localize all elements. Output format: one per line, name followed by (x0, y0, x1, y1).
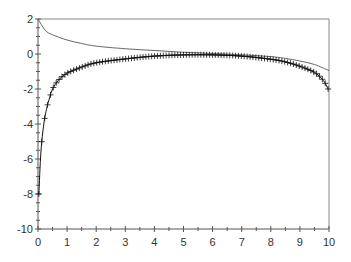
plus-marker (279, 58, 285, 64)
plus-marker (100, 59, 106, 65)
plus-marker (94, 60, 100, 66)
plus-marker (97, 59, 103, 65)
plus-marker (71, 67, 77, 73)
y-tick-label: -8 (23, 188, 33, 200)
plus-marker (45, 102, 51, 108)
plus-marker (296, 63, 302, 69)
plus-marker (282, 59, 288, 65)
series-layer (36, 19, 331, 197)
plus-marker (293, 62, 299, 68)
plus-marker (308, 67, 314, 73)
x-tick-label: 0 (35, 236, 41, 248)
plus-marker (79, 64, 85, 70)
plus-marker (299, 64, 305, 70)
x-tick-label: 1 (64, 236, 70, 248)
y-tick-label: -4 (23, 118, 33, 130)
plus-marker (276, 57, 282, 63)
x-tick-label: 8 (268, 236, 274, 248)
x-tick-label: 4 (151, 236, 157, 248)
plus-marker (76, 65, 82, 71)
plus-marker (305, 66, 311, 72)
plus-marker (91, 60, 97, 66)
y-tick-label: 0 (27, 48, 33, 60)
plus-marker (68, 68, 74, 74)
y-tick-label: -10 (17, 223, 33, 235)
y-tick-label: -2 (23, 83, 33, 95)
series-line-1 (38, 19, 329, 71)
plus-marker (290, 61, 296, 67)
plus-marker (82, 63, 88, 69)
plus-marker (285, 59, 291, 65)
y-axis-ticks: 20-2-4-6-8-10 (17, 13, 41, 235)
x-tick-label: 3 (122, 236, 128, 248)
plus-marker (39, 139, 45, 145)
plus-marker (42, 115, 48, 121)
x-tick-label: 7 (239, 236, 245, 248)
plus-marker (85, 62, 91, 68)
plus-marker (273, 57, 279, 63)
y-tick-label: -6 (23, 153, 33, 165)
plus-marker (36, 191, 42, 197)
plus-marker (288, 60, 294, 66)
plot-frame (38, 19, 329, 229)
y-tick-label: 2 (27, 13, 33, 25)
series-line-2 (39, 55, 328, 194)
plus-marker (73, 66, 79, 72)
plus-marker (322, 80, 328, 86)
x-tick-label: 2 (93, 236, 99, 248)
plus-marker (325, 86, 331, 92)
x-tick-label: 5 (180, 236, 186, 248)
plus-marker (50, 84, 56, 90)
plus-marker (88, 61, 94, 67)
x-tick-label: 6 (210, 236, 216, 248)
line-chart: 20-2-4-6-8-10 012345678910 (0, 0, 351, 262)
plus-marker (302, 65, 308, 71)
x-tick-label: 9 (297, 236, 303, 248)
plus-marker (47, 92, 53, 98)
x-tick-label: 10 (323, 236, 335, 248)
